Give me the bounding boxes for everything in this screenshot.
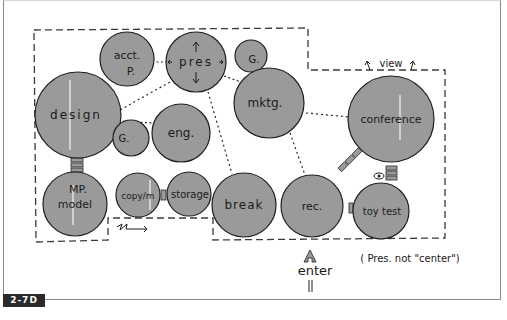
label-g-mid: G. <box>119 133 130 144</box>
label-acct: acct. <box>114 49 141 62</box>
label-g-top: G. <box>249 54 260 65</box>
view-label: view <box>379 58 402 69</box>
figure-label: 2-7D <box>3 294 45 307</box>
scribble-arrow-icon <box>117 224 147 232</box>
view-annotation: view <box>365 58 415 70</box>
enter-label: enter <box>298 263 333 278</box>
label-storage: storage <box>171 189 209 200</box>
view-arrow-left-icon <box>365 61 370 70</box>
label-mp: MP. <box>69 183 87 196</box>
note-label: ( Pres. not "center") <box>360 253 459 264</box>
label-acct-sub: P. <box>127 65 135 78</box>
label-toy-test: toy test <box>363 206 401 217</box>
label-rec: rec. <box>302 200 323 213</box>
label-copy: copy/m <box>121 191 154 201</box>
eye-icon <box>374 173 384 179</box>
label-model: model <box>58 198 92 211</box>
label-conference: conference <box>360 113 421 126</box>
bubble-diagram: acct. P. pres G. design G. eng. mktg. co… <box>0 0 507 320</box>
label-break: break <box>225 198 264 212</box>
dotted-connections <box>118 62 349 175</box>
label-mktg: mktg. <box>248 96 283 110</box>
label-pres: pres <box>179 55 213 69</box>
label-design: design <box>50 108 102 122</box>
label-eng: eng. <box>168 126 194 140</box>
view-arrow-right-icon <box>410 61 415 70</box>
